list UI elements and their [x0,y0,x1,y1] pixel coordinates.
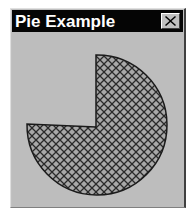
pie-slice [27,55,167,195]
pie-chart [0,0,195,211]
